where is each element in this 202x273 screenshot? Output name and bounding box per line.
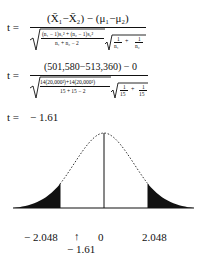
arrow-icon: ↑: [74, 230, 80, 242]
label-test-statistic: − 1.61: [67, 243, 95, 255]
label-neg-critical: − 2.048: [24, 231, 58, 243]
left-rejection-region: [13, 184, 60, 208]
label-zero: 0: [98, 231, 104, 243]
right-rejection-region: [148, 184, 194, 208]
label-pos-critical: 2.048: [142, 231, 167, 243]
